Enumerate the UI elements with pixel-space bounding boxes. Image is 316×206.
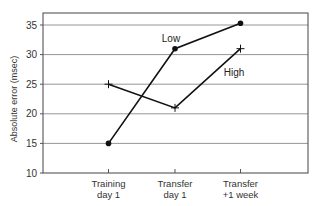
x-axis-ticks: Trainingday 1Transferday 1Transfer+1 wee… [92, 169, 259, 200]
x-tick-label: +1 week [223, 189, 259, 200]
y-tick-label: 10 [26, 168, 38, 179]
series-line [109, 49, 241, 108]
y-axis-title: Absolute error (msec) [9, 56, 19, 143]
dot-marker-icon [172, 46, 178, 52]
y-axis-ticks: 101520253035 [26, 20, 43, 179]
x-tick-label: Transfer [157, 178, 192, 189]
x-tick-label: day 1 [97, 189, 120, 200]
y-tick-label: 30 [26, 49, 38, 60]
y-tick-label: 20 [26, 108, 38, 119]
cross-marker-icon [105, 80, 113, 88]
y-tick-label: 35 [26, 20, 38, 31]
x-tick-label: Transfer [223, 178, 258, 189]
dot-marker-icon [106, 141, 112, 147]
series-label-low: Low [162, 33, 181, 44]
x-tick-label: Training [92, 178, 126, 189]
y-tick-label: 15 [26, 138, 38, 149]
x-tick-label: day 1 [163, 189, 186, 200]
dot-marker-icon [238, 20, 244, 26]
line-chart: 101520253035 Trainingday 1Transferday 1T… [0, 0, 316, 206]
series-label-high: High [224, 67, 245, 78]
y-tick-label: 25 [26, 79, 38, 90]
